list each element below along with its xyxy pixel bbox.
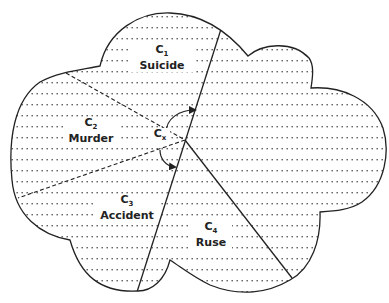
region-c2-sub: 2 xyxy=(93,123,98,131)
region-c3-sub: 3 xyxy=(129,200,134,208)
region-c4-symbol: C xyxy=(205,220,213,233)
region-c4-name: Ruse xyxy=(191,237,231,249)
center-sub: x xyxy=(162,134,167,142)
region-label-c4: C4 Ruse xyxy=(190,221,232,249)
cloud-shape xyxy=(11,13,386,292)
region-c2-name: Murder xyxy=(64,133,118,145)
region-c3-symbol: C xyxy=(121,193,129,206)
center-label-cx: Cx xyxy=(150,128,170,144)
region-label-c3: C3 Accident xyxy=(96,194,158,222)
region-c1-name: Suicide xyxy=(131,60,193,72)
center-symbol: C xyxy=(154,127,162,140)
region-c3-name: Accident xyxy=(97,210,157,222)
region-label-c2: C2 Murder xyxy=(63,117,119,145)
region-c4-sub: 4 xyxy=(213,227,218,235)
region-c1-sub: 1 xyxy=(164,50,169,58)
region-c2-symbol: C xyxy=(85,116,93,129)
region-c1-symbol: C xyxy=(156,43,164,56)
diagram-canvas xyxy=(0,0,389,303)
region-label-c1: C1 Suicide xyxy=(130,44,194,72)
